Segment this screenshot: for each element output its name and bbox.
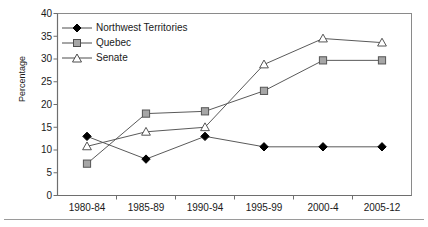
series-quebec — [83, 57, 385, 167]
legend-label: Senate — [96, 52, 128, 63]
data-point — [260, 87, 267, 94]
data-point — [142, 155, 150, 163]
data-point — [260, 60, 269, 68]
legend-item-northwest-territories[interactable]: Northwest Territories — [62, 20, 188, 35]
data-point — [260, 143, 268, 151]
legend-key-northwest-territories — [62, 22, 92, 34]
data-point — [319, 57, 326, 64]
legend-label: Quebec — [96, 37, 131, 48]
legend-item-quebec[interactable]: Quebec — [62, 35, 188, 50]
line-chart: Percentage 40 35 30 25 20 15 10 5 0 1980… — [0, 0, 428, 227]
legend-label: Northwest Territories — [96, 22, 188, 33]
x-tick-marks — [117, 196, 353, 200]
data-point — [201, 108, 208, 115]
series-northwest-territories — [83, 132, 386, 163]
series-line — [87, 136, 382, 159]
data-point — [83, 160, 90, 167]
legend: Northwest Territories Quebec Senate — [62, 20, 188, 65]
data-point — [319, 143, 327, 151]
legend-key-senate — [62, 52, 92, 64]
data-point — [319, 34, 328, 42]
series-line — [87, 60, 382, 163]
data-point — [142, 110, 149, 117]
data-point — [378, 143, 386, 151]
legend-item-senate[interactable]: Senate — [62, 50, 188, 65]
legend-key-quebec — [62, 37, 92, 49]
data-point — [378, 57, 385, 64]
data-point — [83, 132, 91, 140]
data-point — [201, 132, 209, 140]
